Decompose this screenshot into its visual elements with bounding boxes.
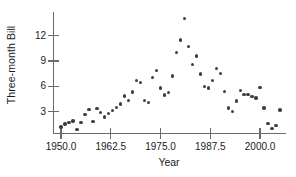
data-point bbox=[123, 94, 126, 97]
data-point bbox=[163, 93, 166, 96]
data-point bbox=[143, 99, 146, 102]
data-point bbox=[79, 121, 82, 124]
data-point bbox=[219, 72, 222, 75]
data-point bbox=[278, 108, 281, 111]
y-tick-label: 9 bbox=[0, 56, 46, 66]
data-point bbox=[179, 38, 182, 41]
data-point bbox=[75, 128, 78, 131]
y-tick-label-text: 6 bbox=[26, 81, 46, 91]
data-point bbox=[115, 106, 118, 109]
data-point bbox=[147, 101, 150, 104]
x-tick-mark bbox=[160, 128, 161, 139]
data-point bbox=[270, 127, 273, 130]
x-axis-line bbox=[53, 133, 286, 134]
scatter-chart-figure: Three-month Bill 36912 1950.01962.51975.… bbox=[0, 0, 296, 177]
data-point bbox=[227, 106, 230, 109]
data-point bbox=[159, 86, 162, 89]
y-tick-mark bbox=[48, 86, 59, 87]
data-point bbox=[119, 102, 122, 105]
data-point bbox=[187, 45, 190, 48]
data-point bbox=[91, 120, 94, 123]
data-point bbox=[254, 96, 257, 99]
y-tick-label-text: 12 bbox=[26, 31, 46, 41]
data-point bbox=[99, 111, 102, 114]
y-tick-mark bbox=[48, 111, 59, 112]
x-tick-mark bbox=[210, 128, 211, 139]
data-point bbox=[107, 112, 110, 115]
data-point bbox=[175, 51, 178, 54]
data-point bbox=[211, 79, 214, 82]
data-point bbox=[195, 54, 198, 57]
x-axis-title: Year bbox=[53, 156, 285, 168]
data-point bbox=[131, 90, 134, 93]
data-point bbox=[63, 122, 66, 125]
data-point bbox=[135, 79, 138, 82]
y-tick-label-text: 3 bbox=[26, 107, 46, 117]
data-point bbox=[171, 74, 174, 77]
data-point bbox=[274, 124, 277, 127]
data-point bbox=[127, 99, 130, 102]
data-point bbox=[59, 125, 62, 128]
y-tick-label: 3 bbox=[0, 107, 46, 117]
data-point bbox=[231, 110, 234, 113]
data-point bbox=[155, 69, 158, 72]
data-point bbox=[203, 85, 206, 88]
y-tick-mark bbox=[48, 60, 59, 61]
data-point bbox=[67, 121, 70, 124]
x-tick-mark bbox=[259, 128, 260, 139]
data-point bbox=[95, 107, 98, 110]
data-point bbox=[103, 115, 106, 118]
data-point bbox=[250, 95, 253, 98]
data-point bbox=[71, 119, 74, 122]
data-point bbox=[235, 99, 238, 102]
data-point bbox=[87, 108, 90, 111]
data-point bbox=[183, 17, 186, 20]
data-point bbox=[262, 106, 265, 109]
data-point bbox=[266, 122, 269, 125]
y-tick-mark bbox=[48, 35, 59, 36]
y-axis-line bbox=[53, 12, 54, 134]
data-point bbox=[246, 93, 249, 96]
data-point bbox=[167, 91, 170, 94]
data-point bbox=[239, 89, 242, 92]
y-tick-label: 12 bbox=[0, 31, 46, 41]
x-tick-label: 2000.0 bbox=[230, 141, 290, 152]
data-point bbox=[258, 86, 261, 89]
data-point bbox=[111, 109, 114, 112]
x-tick-mark bbox=[110, 128, 111, 139]
data-point bbox=[83, 113, 86, 116]
y-tick-label: 6 bbox=[0, 81, 46, 91]
data-point bbox=[242, 93, 245, 96]
data-point bbox=[191, 63, 194, 66]
plot-area: 36912 1950.01962.51975.01987.52000.0 bbox=[0, 0, 296, 177]
x-tick-mark bbox=[60, 128, 61, 139]
x-axis-title-text: Year bbox=[158, 156, 179, 168]
data-point bbox=[199, 72, 202, 75]
data-point bbox=[223, 90, 226, 93]
data-point bbox=[151, 76, 154, 79]
data-point bbox=[139, 81, 142, 84]
y-tick-label-text: 9 bbox=[26, 56, 46, 66]
data-point bbox=[207, 86, 210, 89]
data-point bbox=[215, 67, 218, 70]
